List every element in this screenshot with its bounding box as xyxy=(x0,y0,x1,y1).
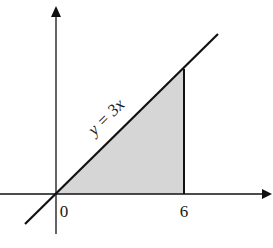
y-axis-arrow-icon xyxy=(51,6,61,17)
tick-label-six: 6 xyxy=(180,202,189,221)
line-y-equals-3x xyxy=(25,34,218,224)
diagram-canvas: y = 3x 0 6 xyxy=(0,0,273,248)
tick-label-origin: 0 xyxy=(60,202,69,221)
x-axis-arrow-icon xyxy=(262,189,272,199)
